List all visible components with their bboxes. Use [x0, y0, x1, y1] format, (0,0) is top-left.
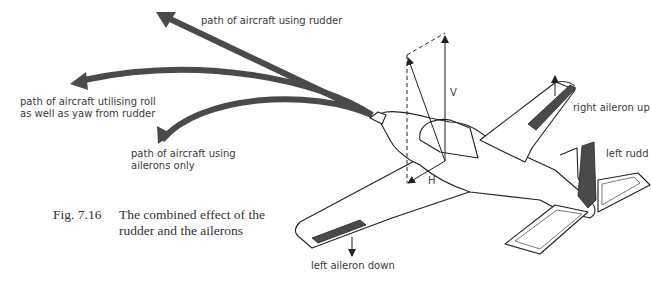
aircraft-diagram: [0, 0, 651, 282]
caption-line2: rudder and the ailerons: [53, 223, 265, 239]
flight-path-arrows: [70, 12, 372, 144]
label-left-rudder: left rudd: [606, 148, 649, 160]
tailplane-near: [505, 205, 588, 254]
ailerons-path-arrow: [162, 99, 372, 140]
dashed-top: [407, 33, 445, 55]
label-right-aileron: right aileron up: [573, 102, 650, 114]
figure-number: Fig. 7.16: [53, 207, 119, 223]
label-vector-v: V: [450, 87, 457, 98]
label-roll-yaw-path-line2: as well as yaw from rudder: [20, 108, 155, 120]
label-left-aileron: left aileron down: [311, 260, 395, 272]
label-rudder-path: path of aircraft using rudder: [201, 15, 342, 27]
left-rudder: [578, 142, 596, 208]
figure-caption: Fig. 7.16The combined effect of the rudd…: [53, 207, 265, 239]
label-ailerons-path-line1: path of aircraft using: [131, 148, 236, 160]
label-vector-h: H: [428, 175, 436, 186]
label-ailerons-path-line2: ailerons only: [131, 160, 195, 172]
caption-line1: The combined effect of the: [119, 207, 265, 222]
roll-yaw-arrowhead: [70, 72, 88, 90]
label-roll-yaw-path-line1: path of aircraft utilising roll: [20, 96, 156, 108]
